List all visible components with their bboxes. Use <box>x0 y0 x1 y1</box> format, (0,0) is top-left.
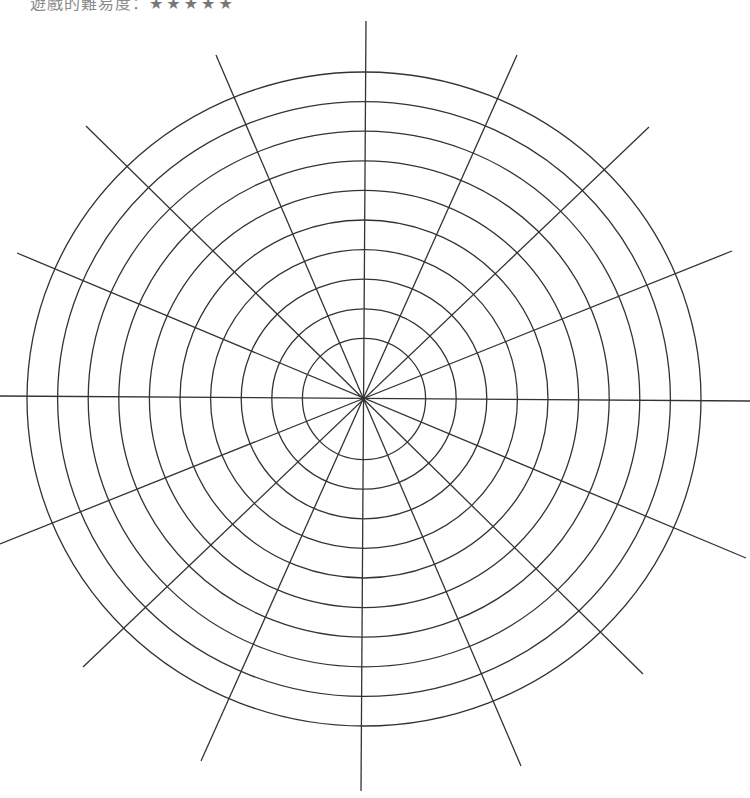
grid-spoke <box>361 21 366 791</box>
grid-spoke <box>17 253 746 558</box>
grid-spoke <box>0 396 750 401</box>
polar-grid-diagram <box>0 0 750 798</box>
grid-spoke <box>216 55 521 766</box>
